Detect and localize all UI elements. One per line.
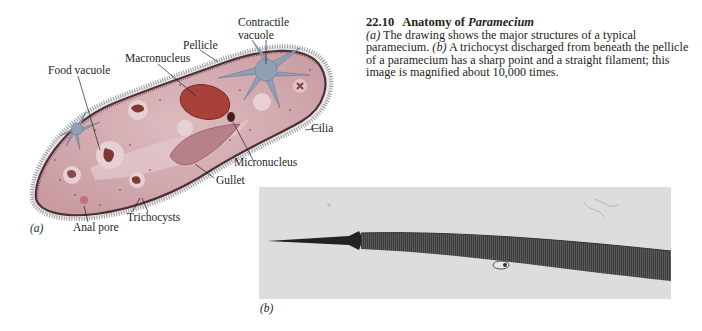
label-trichocysts: Trichocysts xyxy=(127,211,180,223)
trichocyst-micrograph xyxy=(259,187,671,299)
panel-label-b: (b) xyxy=(260,302,273,314)
figure-caption: 22.10Anatomy of Paramecium (a) The drawi… xyxy=(366,16,696,79)
trichocyst-image xyxy=(259,187,671,299)
caption-body: (a) The drawing shows the major structur… xyxy=(366,29,696,79)
micronucleus xyxy=(227,112,235,122)
label-macronucleus: Macronucleus xyxy=(125,52,190,64)
label-pellicle: Pellicle xyxy=(183,39,218,51)
label-micronucleus: Micronucleus xyxy=(234,156,297,168)
label-cilia: Cilia xyxy=(311,122,333,134)
label-food-vacuole: Food vacuole xyxy=(48,64,110,76)
label-contractile-vacuole-1: Contractile xyxy=(238,16,289,28)
label-anal-pore: Anal pore xyxy=(73,221,119,233)
label-contractile-vacuole-2: vacuole xyxy=(238,29,274,41)
panel-label-a: (a) xyxy=(30,222,43,234)
label-gullet: Gullet xyxy=(216,174,245,186)
